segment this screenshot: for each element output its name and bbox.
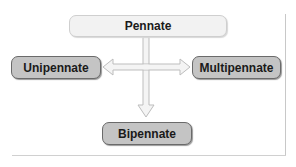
node-bipennate: Bipennate — [102, 122, 192, 145]
node-label: Pennate — [125, 19, 172, 33]
node-label: Bipennate — [118, 127, 176, 141]
down-arrow-icon — [138, 37, 154, 117]
node-label: Multipennate — [200, 61, 274, 75]
node-label: Unipennate — [23, 61, 88, 75]
node-multipennate: Multipennate — [192, 56, 281, 79]
node-pennate: Pennate — [69, 15, 227, 37]
node-unipennate: Unipennate — [11, 56, 101, 79]
